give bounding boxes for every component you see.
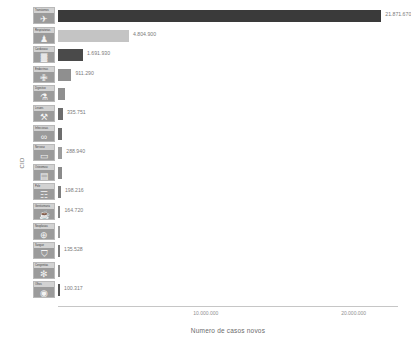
compass-icon: ✙ <box>34 72 54 83</box>
bar[interactable] <box>58 167 62 179</box>
airplane-icon: ✈ <box>34 13 54 24</box>
category-icon-book-icon[interactable]: Osteomusc▤ <box>33 164 55 181</box>
bar-row[interactable]: 288.940 <box>58 147 398 159</box>
glasses-icon: ∞ <box>34 131 54 142</box>
bar-value-label: 100.317 <box>64 285 83 291</box>
category-icon-glasses-icon[interactable]: Infecciosas∞ <box>33 125 55 142</box>
bar-row[interactable] <box>58 226 398 238</box>
plot-area: 21.871.6704.804.9001.691.930911.290335.7… <box>58 10 398 306</box>
person-icon: ♟ <box>34 33 54 44</box>
bar-row[interactable] <box>58 265 398 277</box>
bar-value-label: 1.691.930 <box>87 50 110 56</box>
bar[interactable] <box>58 186 61 198</box>
bar[interactable] <box>58 245 60 257</box>
bar-row[interactable]: 164.720 <box>58 206 398 218</box>
people-icon: ☶ <box>34 189 54 200</box>
category-icon-chart-icon[interactable]: Cardiovasc▓ <box>33 46 55 63</box>
x-axis-line <box>58 306 398 307</box>
bar-value-label: 335.751 <box>67 109 86 115</box>
category-icon-person-icon[interactable]: Respiratorias♟ <box>33 27 55 44</box>
x-axis-tick-label: 10.000.000 <box>193 310 218 316</box>
bed-icon: ▭ <box>34 150 54 161</box>
bar-row[interactable]: 4.804.900 <box>58 30 398 42</box>
bar[interactable] <box>58 30 129 42</box>
bar[interactable] <box>58 69 71 81</box>
category-icon-compass-icon[interactable]: Endocrinas✙ <box>33 66 55 83</box>
pill-icon: ⊕ <box>34 229 54 240</box>
bar-row[interactable] <box>58 167 398 179</box>
bar[interactable] <box>58 284 60 296</box>
category-icon-injection-icon[interactable]: Lesoes⚒ <box>33 105 55 122</box>
bar-row[interactable]: 335.751 <box>58 108 398 120</box>
category-icon-shield-icon[interactable]: Sangue⛉ <box>33 242 55 259</box>
book-icon: ▤ <box>34 170 54 181</box>
bar-value-label: 135.528 <box>64 246 83 252</box>
bar-row[interactable]: 198.216 <box>58 186 398 198</box>
bar-row[interactable] <box>58 88 398 100</box>
bar-row[interactable] <box>58 128 398 140</box>
bar-row[interactable]: 1.691.930 <box>58 49 398 61</box>
category-icon-people-icon[interactable]: Pele☶ <box>33 183 55 200</box>
bar-row[interactable]: 135.528 <box>58 245 398 257</box>
injection-icon: ⚒ <box>34 111 54 122</box>
bar[interactable] <box>58 10 381 22</box>
y-axis-title: CID <box>19 133 25 193</box>
bar[interactable] <box>58 265 60 277</box>
bar-row[interactable]: 100.317 <box>58 284 398 296</box>
bar-value-label: 198.216 <box>65 187 84 193</box>
x-axis-tick-label: 20.000.000 <box>341 310 366 316</box>
category-icon-flask-icon[interactable]: Digestivo⚗ <box>33 85 55 102</box>
virus-icon: ✻ <box>34 268 54 279</box>
bar-value-label: 288.940 <box>66 148 85 154</box>
category-icon-pill-icon[interactable]: Neoplasias⊕ <box>33 223 55 240</box>
bar[interactable] <box>58 206 60 218</box>
bar-value-label: 4.804.900 <box>133 31 156 37</box>
bar[interactable] <box>58 226 60 238</box>
chart-icon: ▓ <box>34 52 54 63</box>
bar-row[interactable]: 911.290 <box>58 69 398 81</box>
flask-icon: ⚗ <box>34 91 54 102</box>
category-icon-eye-icon[interactable]: Olhos◉ <box>33 281 55 298</box>
shield-icon: ⛉ <box>34 248 54 259</box>
bar[interactable] <box>58 128 62 140</box>
bar-value-label: 911.290 <box>75 70 93 76</box>
category-icon-virus-icon[interactable]: Congenitas✻ <box>33 262 55 279</box>
bar[interactable] <box>58 49 83 61</box>
bar-value-label: 21.871.670 <box>385 11 411 17</box>
bar[interactable] <box>58 147 62 159</box>
bar[interactable] <box>58 88 65 100</box>
cup-icon: ☕ <box>34 209 54 220</box>
x-axis-title: Numero de casos novos <box>58 327 398 334</box>
bar[interactable] <box>58 108 63 120</box>
bar-row[interactable]: 21.871.670 <box>58 10 398 22</box>
eye-icon: ◉ <box>34 287 54 298</box>
bar-value-label: 164.720 <box>64 207 83 213</box>
category-icon-cup-icon[interactable]: Geniturinaria☕ <box>33 203 55 220</box>
category-icon-airplane-icon[interactable]: Transtornos✈ <box>33 7 55 24</box>
category-icon-bed-icon[interactable]: Nervoso▭ <box>33 144 55 161</box>
category-icon-column: Transtornos✈Respiratorias♟Cardiovasc▓End… <box>33 10 56 306</box>
